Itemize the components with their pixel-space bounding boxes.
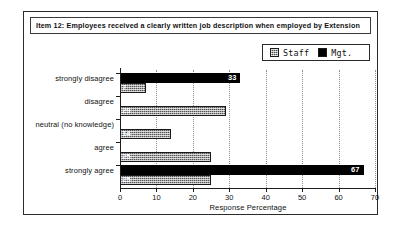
value-staff-strongly-agree: 25: [122, 175, 130, 185]
x-tick-0: [120, 188, 121, 192]
legend-swatch-mgt-icon: [318, 48, 327, 57]
value-mgt-strongly-agree: 67: [351, 165, 359, 175]
y-label-strongly-agree: strongly agree: [65, 166, 114, 175]
gridline-70: [375, 70, 376, 188]
y-label-neutral: neutral (no knowledge): [36, 120, 115, 129]
value-mgt-strongly-disagree: 33: [228, 73, 236, 83]
y-label-strongly-disagree: strongly disagree: [55, 74, 114, 83]
y-label-agree: agree: [94, 143, 114, 152]
legend-swatch-staff-icon: [270, 48, 279, 57]
x-tick-30: [229, 188, 230, 192]
x-tick-label-50: 50: [298, 193, 306, 202]
x-tick-label-70: 70: [371, 193, 379, 202]
x-tick-20: [193, 188, 194, 192]
value-staff-strongly-disagree: 7: [122, 83, 126, 93]
bar-staff-strongly-agree: [120, 175, 211, 185]
bar-mgt-strongly-disagree: [120, 73, 240, 83]
bar-staff-disagree: [120, 106, 226, 116]
x-tick-label-60: 60: [334, 193, 342, 202]
y-tick-0: [116, 73, 120, 74]
x-tick-label-30: 30: [225, 193, 233, 202]
chart-legend: Staff Mgt.: [262, 44, 370, 61]
value-staff-neutral: 14: [122, 129, 130, 139]
bar-staff-agree: [120, 152, 211, 162]
y-label-disagree: disagree: [84, 97, 114, 106]
y-tick-3: [116, 142, 120, 143]
x-tick-50: [302, 188, 303, 192]
x-tick-70: [375, 188, 376, 192]
x-tick-40: [266, 188, 267, 192]
y-tick-4: [116, 165, 120, 166]
plot-area: 33 7 0 29 0 14 0 25 67 25: [120, 70, 375, 188]
y-axis-line: [120, 68, 121, 190]
legend-item-staff: Staff: [270, 48, 309, 58]
y-tick-1: [116, 96, 120, 97]
chart-title-box: Item 12: Employees received a clearly wr…: [30, 17, 371, 34]
legend-item-mgt: Mgt.: [318, 48, 352, 58]
bar-mgt-strongly-agree: [120, 165, 364, 175]
x-tick-label-0: 0: [118, 193, 122, 202]
y-tick-2: [116, 119, 120, 120]
y-axis-labels: strongly disagree disagree neutral (no k…: [0, 70, 114, 188]
chart-title: Item 12: Employees received a clearly wr…: [31, 21, 360, 30]
x-tick-60: [339, 188, 340, 192]
x-tick-label-40: 40: [262, 193, 270, 202]
x-tick-label-10: 10: [152, 193, 160, 202]
legend-label-mgt: Mgt.: [331, 48, 352, 58]
value-staff-disagree: 29: [122, 106, 130, 116]
x-tick-10: [156, 188, 157, 192]
x-axis-title: Response Percentage: [120, 203, 376, 212]
legend-label-staff: Staff: [283, 48, 309, 58]
chart-figure: Item 12: Employees received a clearly wr…: [0, 0, 403, 235]
x-tick-label-20: 20: [189, 193, 197, 202]
value-staff-agree: 25: [122, 152, 130, 162]
